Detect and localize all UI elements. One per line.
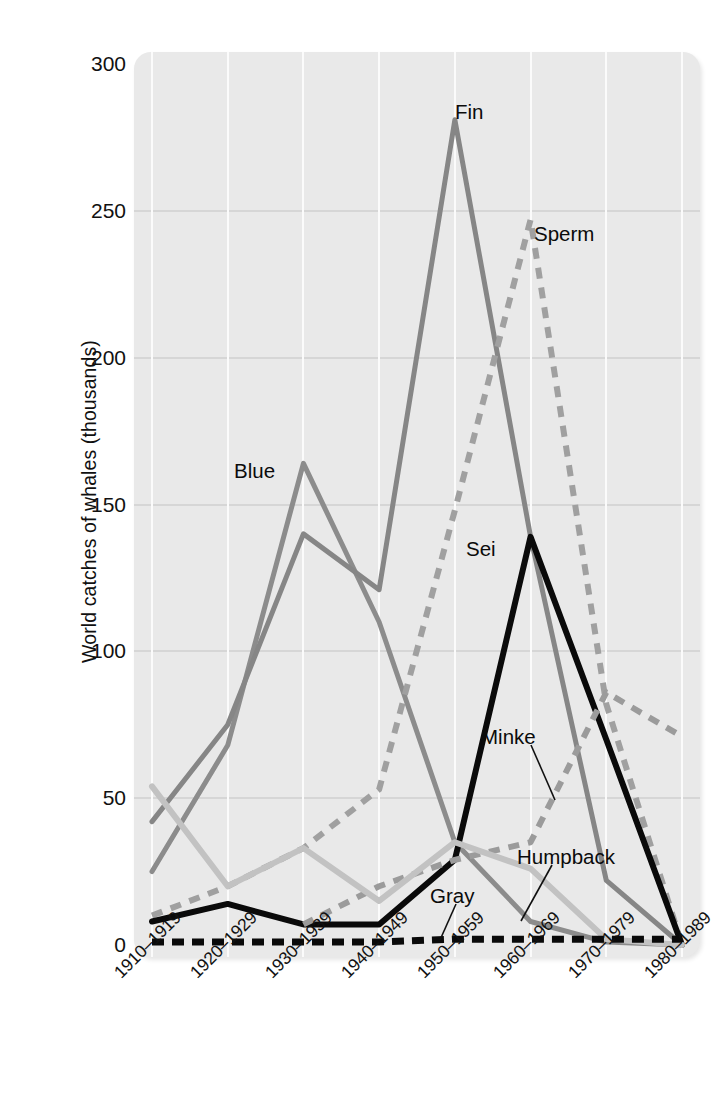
annotation-fin: Fin [455, 100, 483, 124]
annotation-minke: Minke [481, 725, 536, 749]
annotation-sei: Sei [466, 537, 496, 561]
annotation-sperm: Sperm [534, 222, 594, 246]
series-lines [134, 52, 700, 957]
annotation-gray: Gray [430, 884, 474, 908]
y-tick-150: 150 [68, 493, 126, 517]
series-line-sperm [152, 220, 682, 945]
annotation-blue: Blue [234, 459, 275, 483]
plot-area [134, 52, 700, 957]
y-tick-50: 50 [68, 786, 126, 810]
y-tick-250: 250 [68, 199, 126, 223]
y-tick-0: 0 [68, 933, 126, 957]
y-axis-tick-labels: 050100150200250300 [62, 0, 126, 1101]
whale-catch-line-chart: World catches of whales (thousands) 0501… [0, 0, 716, 1101]
y-tick-200: 200 [68, 346, 126, 370]
y-tick-300: 300 [68, 52, 126, 76]
series-line-fin [152, 120, 682, 945]
annotation-humpback: Humpback [517, 845, 615, 869]
y-tick-100: 100 [68, 639, 126, 663]
